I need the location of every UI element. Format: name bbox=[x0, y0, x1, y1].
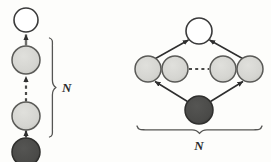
diagram-svg: N bbox=[0, 0, 271, 162]
right-diagram-nodes bbox=[135, 18, 263, 124]
right-diagram: N bbox=[135, 18, 263, 153]
right-plate-brace bbox=[137, 126, 262, 134]
left-plate-brace bbox=[50, 38, 57, 137]
node-latent-upper-left[interactable] bbox=[12, 46, 40, 74]
right-plate-label: N bbox=[193, 138, 204, 153]
node-latent-4-right[interactable] bbox=[237, 56, 263, 82]
left-plate-label: N bbox=[61, 80, 72, 95]
node-observed-left[interactable] bbox=[12, 138, 40, 162]
node-observed-right[interactable] bbox=[185, 96, 213, 124]
left-diagram-nodes bbox=[12, 8, 40, 162]
left-diagram: N bbox=[12, 8, 72, 162]
figure-canvas: N bbox=[0, 0, 271, 162]
node-latent-1-right[interactable] bbox=[135, 56, 161, 82]
node-root-white-right[interactable] bbox=[186, 18, 212, 44]
edge-observed-to-latent-first bbox=[155, 82, 188, 102]
node-latent-3-right[interactable] bbox=[210, 56, 236, 82]
edge-observed-to-latent-last bbox=[211, 82, 244, 102]
node-latent-lower-left[interactable] bbox=[12, 102, 40, 130]
node-latent-2-right[interactable] bbox=[162, 56, 188, 82]
node-root-white-left[interactable] bbox=[14, 8, 38, 32]
